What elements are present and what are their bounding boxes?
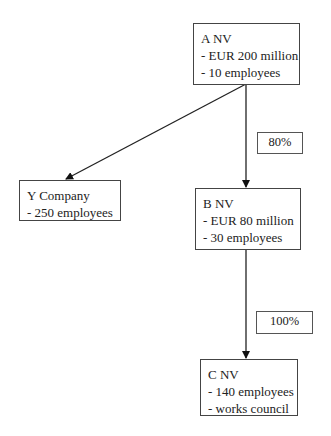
node-c-line-1: - 140 employees bbox=[208, 383, 290, 400]
label-100-percent: 100% bbox=[256, 311, 313, 334]
node-a-nv: A NV - EUR 200 million - 10 employees bbox=[193, 23, 300, 85]
node-a-line-2: - 10 employees bbox=[201, 64, 292, 81]
edge-a-to-y bbox=[66, 84, 246, 179]
label-80-percent: 80% bbox=[257, 132, 303, 154]
node-a-line-1: - EUR 200 million bbox=[201, 47, 292, 64]
node-b-nv: B NV - EUR 80 million - 30 employees bbox=[195, 188, 301, 250]
node-c-line-2: - works council bbox=[208, 400, 290, 417]
node-a-title: A NV bbox=[201, 30, 292, 47]
node-b-line-2: - 30 employees bbox=[203, 229, 293, 246]
node-b-line-1: - EUR 80 million bbox=[203, 212, 293, 229]
node-y-title: Y Company bbox=[27, 187, 113, 204]
node-c-nv: C NV - 140 employees - works council bbox=[200, 359, 298, 416]
node-y-line-1: - 250 employees bbox=[27, 204, 113, 221]
node-y-company: Y Company - 250 employees bbox=[19, 180, 121, 221]
node-c-title: C NV bbox=[208, 366, 290, 383]
node-b-title: B NV bbox=[203, 195, 293, 212]
